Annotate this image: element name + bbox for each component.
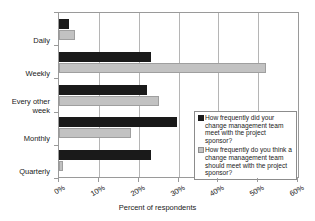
bar-series-2 xyxy=(59,30,75,40)
plot-area: How frequently did your change managemen… xyxy=(58,12,299,178)
legend-swatch-series-1 xyxy=(198,115,204,121)
x-axis-tick xyxy=(297,178,298,182)
bar-series-2 xyxy=(59,63,266,73)
x-axis-tick xyxy=(98,178,99,182)
x-axis-tick xyxy=(178,178,179,182)
bar-series-1 xyxy=(59,117,177,127)
chart-legend: How frequently did your change managemen… xyxy=(194,111,297,180)
bar-series-2 xyxy=(59,128,131,138)
bar-group xyxy=(59,79,298,112)
legend-label-series-1: How frequently did your change managemen… xyxy=(205,114,294,144)
bar-series-2 xyxy=(59,96,159,106)
bar-group xyxy=(59,13,298,46)
x-axis-title: Percent of respondents xyxy=(0,203,315,212)
bar-chart: Daily Weekly Every other week Monthly Qu… xyxy=(0,0,315,221)
x-axis-tick xyxy=(257,178,258,182)
y-axis-label-2: Every other week xyxy=(0,97,50,115)
bar-series-1 xyxy=(59,19,69,29)
legend-entry-series-1: How frequently did your change managemen… xyxy=(197,114,294,144)
x-axis-tick xyxy=(58,178,59,182)
y-axis-labels: Daily Weekly Every other week Monthly Qu… xyxy=(0,12,54,178)
y-axis-label-0: Daily xyxy=(0,36,50,45)
x-axis-tick xyxy=(138,178,139,182)
legend-label-series-2: How frequently do you think a change man… xyxy=(205,146,294,176)
y-axis-label-4: Quarterly xyxy=(0,167,50,176)
x-axis-tick xyxy=(217,178,218,182)
legend-swatch-series-2 xyxy=(198,147,204,153)
bar-series-1 xyxy=(59,150,151,160)
bar-group xyxy=(59,46,298,79)
bar-series-2 xyxy=(59,161,63,171)
y-axis-label-1: Weekly xyxy=(0,69,50,78)
legend-entry-series-2: How frequently do you think a change man… xyxy=(197,146,294,176)
bar-series-1 xyxy=(59,52,151,62)
y-axis-label-3: Monthly xyxy=(0,134,50,143)
bar-series-1 xyxy=(59,85,147,95)
